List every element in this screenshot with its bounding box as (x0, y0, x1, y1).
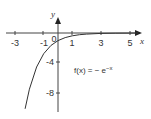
x-tick-label: -3 (11, 38, 19, 48)
x-tick-label: 1 (69, 38, 74, 48)
y-tick-label: -8 (46, 88, 54, 98)
x-axis-label: x (139, 36, 144, 46)
y-tick-label: -4 (46, 57, 54, 67)
y-axis-arrow-icon (55, 17, 61, 24)
function-graph: -3 -1 1 3 5 0 -4 -8 x y f(x) = − e−x (0, 0, 151, 119)
y-axis-label: y (50, 9, 55, 19)
x-tick-label: -1 (40, 38, 48, 48)
x-tick-label: 3 (98, 38, 103, 48)
function-label: f(x) = − e−x (74, 65, 113, 75)
x-tick-label: 5 (127, 38, 132, 48)
